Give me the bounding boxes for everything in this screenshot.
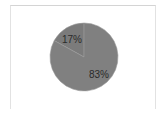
slice-label-17: 17% xyxy=(62,34,82,45)
pie-chart: 17% 83% xyxy=(0,0,164,114)
slice-label-83: 83% xyxy=(89,69,109,80)
